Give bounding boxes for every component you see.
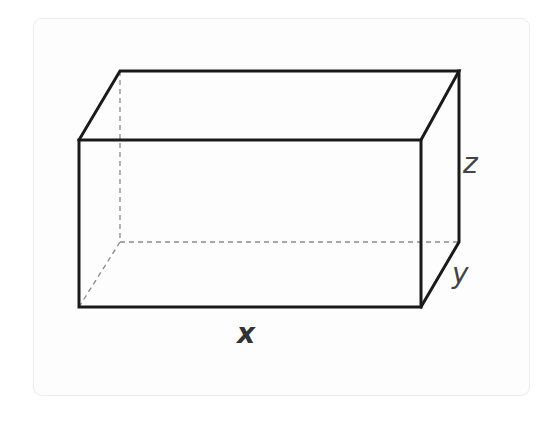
hidden-bottom-left-depth-edge xyxy=(79,242,120,307)
top-face-edges xyxy=(79,71,459,140)
front-face xyxy=(79,140,421,307)
height-label-z: z xyxy=(463,150,478,178)
hidden-edges xyxy=(79,71,459,307)
rectangular-prism-diagram xyxy=(0,0,557,423)
length-label-x: x xyxy=(237,320,255,348)
visible-edges xyxy=(79,71,459,307)
depth-label-y: y xyxy=(452,260,469,288)
